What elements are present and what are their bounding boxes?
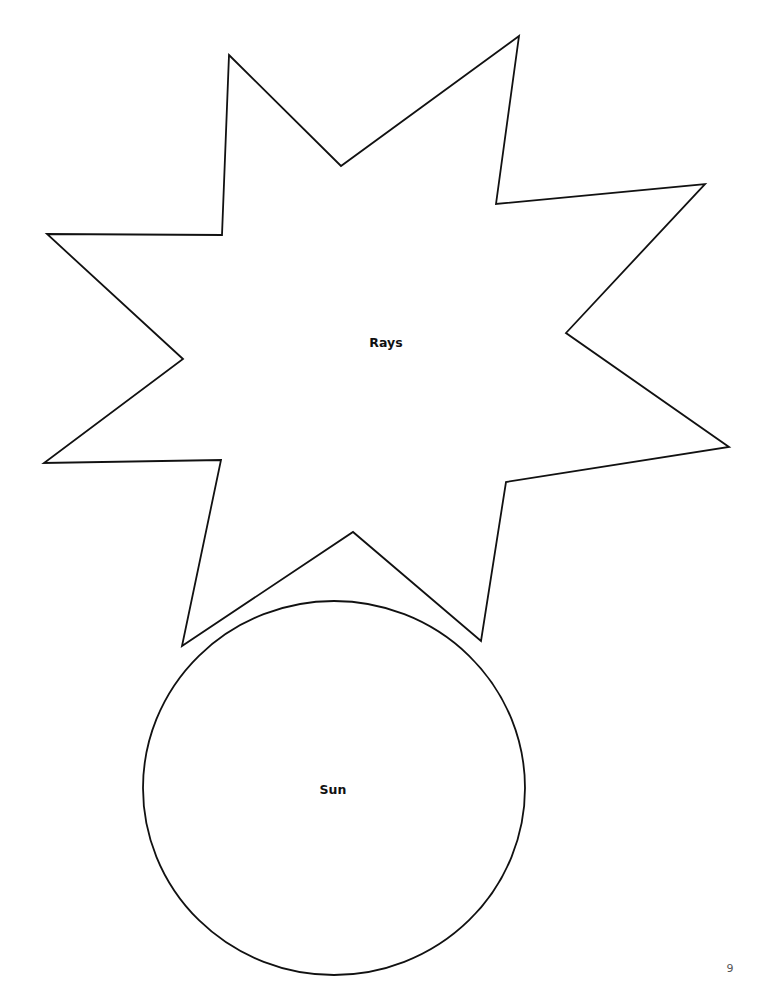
sun-label: Sun [320, 784, 347, 797]
rays-label: Rays [369, 337, 402, 350]
page-number: 9 [727, 963, 734, 974]
craft-template-drawing [0, 0, 762, 1008]
coloring-page: Rays Sun 9 [0, 0, 762, 1008]
